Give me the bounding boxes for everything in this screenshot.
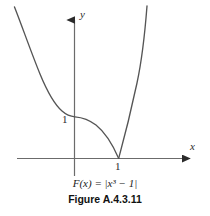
figure-caption: Figure A.4.3.11	[0, 192, 210, 206]
curve-right-branch	[119, 6, 147, 158]
y-axis-label: y	[80, 9, 85, 20]
x-axis-tick-label-1: 1	[115, 161, 121, 172]
y-axis-tick-label-1: 1	[62, 114, 68, 125]
caption-block: F(x) = |x³ − 1| Figure A.4.3.11	[0, 176, 210, 206]
curve-left-branch	[15, 7, 119, 158]
x-axis-label: x	[190, 141, 195, 152]
function-formula: F(x) = |x³ − 1|	[0, 176, 210, 190]
figure-container: 1 1 y x F(x) = |x³ − 1| Figure A.4.3.11	[0, 0, 210, 216]
